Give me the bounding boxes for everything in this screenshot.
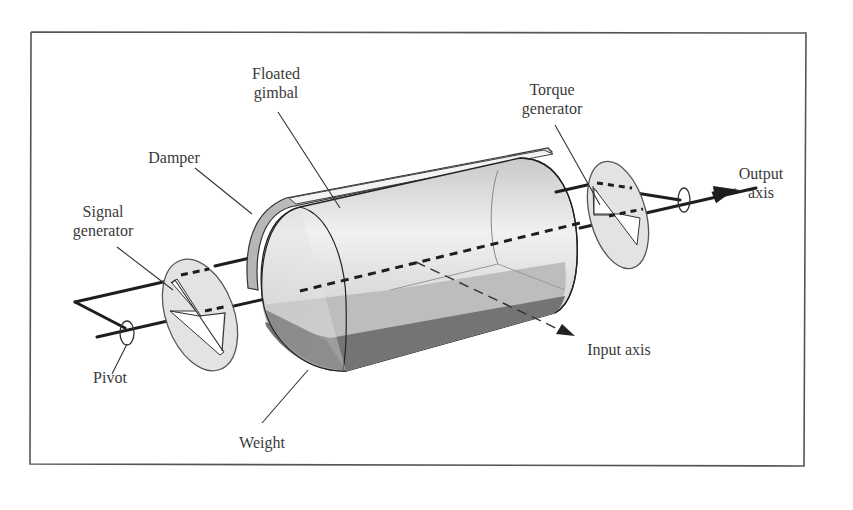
label-torque-generator: Torque generator xyxy=(512,80,592,118)
label-signal-generator-line2: generator xyxy=(58,221,148,240)
label-signal-generator-line1: Signal xyxy=(58,202,148,221)
label-torque-generator-line2: generator xyxy=(512,99,592,118)
label-input-axis: Input axis xyxy=(574,340,664,359)
label-signal-generator: Signal generator xyxy=(58,202,148,240)
gyroscope-diagram: Floated gimbal Damper Signal generator P… xyxy=(0,0,853,510)
label-pivot: Pivot xyxy=(82,368,138,387)
label-input-axis-line1: Input axis xyxy=(574,340,664,359)
label-output-axis-line1: Output xyxy=(726,164,796,183)
label-damper: Damper xyxy=(134,148,214,167)
diagram-canvas xyxy=(0,0,853,510)
label-floated-gimbal-line1: Floated xyxy=(236,64,316,83)
floated-gimbal-cylinder xyxy=(261,158,577,371)
label-weight-line1: Weight xyxy=(227,433,297,452)
label-pivot-line1: Pivot xyxy=(82,368,138,387)
torque-generator-disc xyxy=(577,155,660,276)
label-floated-gimbal-line2: gimbal xyxy=(236,83,316,102)
signal-generator-disc xyxy=(148,249,252,381)
label-weight: Weight xyxy=(227,433,297,452)
label-torque-generator-line1: Torque xyxy=(512,80,592,99)
pivot-ring xyxy=(120,321,134,345)
label-damper-line1: Damper xyxy=(134,148,214,167)
label-output-axis: Output axis xyxy=(726,164,796,202)
label-output-axis-line2: axis xyxy=(726,183,796,202)
label-floated-gimbal: Floated gimbal xyxy=(236,64,316,102)
